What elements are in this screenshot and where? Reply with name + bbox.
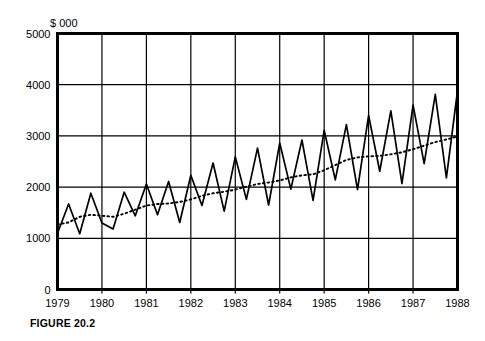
y-axis-unit-label: $ 000 <box>50 17 78 29</box>
y-tick-label-4000: 4000 <box>26 79 50 91</box>
y-tick-label-3000: 3000 <box>26 130 50 142</box>
x-tick-label-1988: 1988 <box>445 297 469 309</box>
time-series-chart: 010002000300040005000 197919801981198219… <box>0 0 485 341</box>
x-tick-label-1985: 1985 <box>312 297 336 309</box>
x-tick-label-1980: 1980 <box>90 297 114 309</box>
y-tick-label-5000: 5000 <box>26 28 50 40</box>
figure-caption: FIGURE 20.2 <box>30 317 95 329</box>
figure-container: 010002000300040005000 197919801981198219… <box>0 0 485 341</box>
y-tick-label-2000: 2000 <box>26 181 50 193</box>
x-tick-label-1982: 1982 <box>179 297 203 309</box>
x-tick-label-1983: 1983 <box>223 297 247 309</box>
y-tick-label-1000: 1000 <box>26 232 50 244</box>
x-tick-label-1981: 1981 <box>134 297 158 309</box>
x-tick-label-1986: 1986 <box>356 297 380 309</box>
x-tick-label-1984: 1984 <box>267 297 291 309</box>
x-tick-label-1987: 1987 <box>401 297 425 309</box>
y-tick-label-0: 0 <box>44 284 50 296</box>
x-tick-label-1979: 1979 <box>45 297 69 309</box>
